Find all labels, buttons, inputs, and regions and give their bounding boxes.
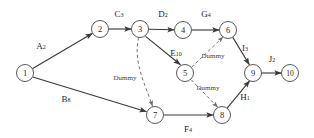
- node-6[interactable]: 6: [220, 22, 237, 39]
- network-diagram: 1 2 3 4 5 6 7: [0, 0, 314, 138]
- network-diagram-canvas: 1 2 3 4 5 6 7: [0, 0, 314, 138]
- node-8[interactable]: 8: [214, 107, 231, 124]
- dummy-label-3-7: Dummy: [114, 74, 137, 82]
- activity-label-H: H1: [240, 92, 250, 102]
- activity-label-B: B8: [61, 94, 70, 104]
- node-9[interactable]: 9: [245, 65, 262, 82]
- dummy-label-group: Dummy Dummy Dummy: [114, 52, 225, 92]
- activity-label-E: E10: [170, 48, 182, 58]
- node-9-label: 9: [251, 68, 255, 78]
- edge-1-7: [33, 77, 147, 112]
- activity-label-A: A2: [36, 41, 46, 51]
- activity-label-F: F4: [184, 124, 192, 134]
- node-3-label: 3: [138, 24, 142, 34]
- activity-label-C: C3: [114, 9, 123, 19]
- node-2-label: 2: [98, 24, 102, 34]
- activity-label-G: G4: [201, 9, 211, 19]
- node-5[interactable]: 5: [177, 65, 194, 82]
- node-8-label: 8: [220, 110, 224, 120]
- dummy-label-5-8: Dummy: [197, 84, 220, 92]
- node-group: 1 2 3 4 5 6 7: [17, 21, 299, 124]
- node-7-label: 7: [153, 110, 157, 120]
- node-1[interactable]: 1: [17, 65, 34, 82]
- edge-1-2: [32, 33, 92, 68]
- edge-3-4: [149, 29, 175, 30]
- node-6-label: 6: [226, 25, 230, 35]
- activity-label-J: J2: [269, 54, 276, 64]
- node-3[interactable]: 3: [132, 21, 149, 38]
- node-4[interactable]: 4: [175, 22, 192, 39]
- dummy-edge-3-7: [137, 37, 152, 106]
- node-10-label: 10: [286, 69, 294, 78]
- node-10[interactable]: 10: [282, 65, 299, 82]
- activity-label-D: D2: [158, 9, 168, 19]
- node-7[interactable]: 7: [147, 107, 164, 124]
- node-1-label: 1: [23, 68, 27, 78]
- dummy-label-5-6: Dummy: [202, 52, 225, 60]
- node-5-label: 5: [183, 68, 187, 78]
- activity-label-I: I3: [242, 43, 248, 53]
- node-2[interactable]: 2: [92, 21, 109, 38]
